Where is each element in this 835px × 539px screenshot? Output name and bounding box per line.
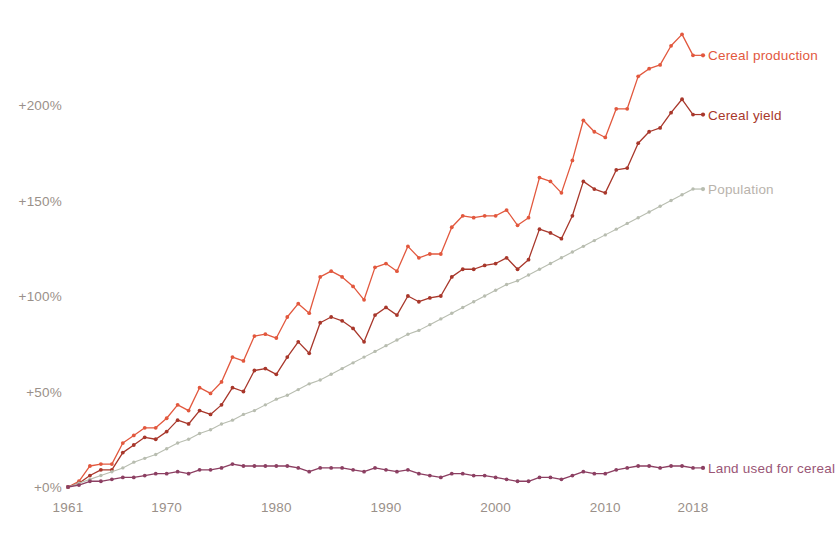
data-point	[318, 321, 322, 325]
data-point	[187, 438, 190, 441]
data-point	[88, 474, 92, 478]
data-point	[461, 214, 465, 218]
data-point	[395, 269, 399, 273]
data-point	[680, 464, 684, 468]
data-point	[406, 244, 410, 248]
data-point	[593, 239, 596, 242]
data-point	[560, 477, 564, 481]
data-point	[614, 168, 618, 172]
y-axis-tick-label: +150%	[0, 193, 62, 208]
data-point	[165, 447, 168, 450]
data-point	[538, 476, 542, 480]
data-point	[560, 256, 563, 259]
data-point	[406, 294, 410, 298]
data-point	[121, 466, 124, 469]
data-point	[417, 472, 421, 476]
data-point	[395, 470, 399, 474]
data-point	[636, 74, 640, 78]
data-point	[220, 422, 223, 425]
data-point	[110, 477, 114, 481]
data-point	[658, 126, 662, 130]
data-point	[220, 380, 224, 384]
data-point	[253, 409, 256, 412]
data-point	[417, 256, 421, 260]
data-point	[198, 386, 202, 390]
data-point	[66, 485, 70, 489]
data-point	[231, 355, 235, 359]
data-point	[209, 428, 212, 431]
data-point	[143, 474, 147, 478]
data-point	[329, 373, 332, 376]
series-end-marker	[701, 466, 705, 470]
data-point	[274, 336, 278, 340]
data-point	[154, 437, 158, 441]
data-point	[198, 468, 202, 472]
data-point	[614, 107, 618, 111]
data-point	[505, 256, 509, 260]
data-point	[636, 216, 639, 219]
data-point	[647, 67, 651, 71]
data-point	[669, 111, 673, 115]
data-point	[297, 388, 300, 391]
data-point	[165, 430, 169, 434]
data-point	[264, 403, 267, 406]
data-point	[307, 351, 311, 355]
data-point	[560, 191, 564, 195]
data-point	[505, 477, 509, 481]
data-point	[373, 350, 376, 353]
data-point	[165, 472, 169, 476]
data-point	[307, 470, 311, 474]
data-point	[395, 338, 398, 341]
data-point	[308, 382, 311, 385]
data-point	[132, 434, 136, 438]
x-axis-tick-label: 2010	[590, 500, 621, 515]
data-point	[99, 479, 103, 483]
data-point	[362, 340, 366, 344]
data-point	[636, 464, 640, 468]
data-point	[571, 250, 574, 253]
data-point	[505, 208, 509, 212]
data-point	[669, 464, 673, 468]
data-point	[231, 418, 234, 421]
data-point	[198, 432, 201, 435]
data-point	[231, 462, 235, 466]
data-point	[494, 262, 498, 266]
data-point	[483, 214, 487, 218]
data-point	[406, 333, 409, 336]
data-point	[275, 397, 278, 400]
data-point	[516, 279, 519, 282]
data-point	[581, 470, 585, 474]
data-point	[296, 340, 300, 344]
data-point	[527, 273, 530, 276]
x-axis-tick-label: 2000	[480, 500, 511, 515]
data-point	[439, 476, 443, 480]
x-axis-tick-label: 1980	[261, 500, 292, 515]
data-point	[373, 265, 377, 269]
data-point	[351, 468, 355, 472]
series-line-cereal-yield	[68, 99, 693, 487]
data-point	[176, 418, 180, 422]
data-point	[527, 216, 531, 220]
data-point	[494, 214, 498, 218]
data-point	[99, 474, 102, 477]
data-point	[110, 462, 114, 466]
data-point	[549, 231, 553, 235]
series-label-cereal-yield[interactable]: Cereal yield	[708, 107, 782, 122]
data-point	[472, 474, 476, 478]
data-point	[143, 426, 147, 430]
data-point	[88, 464, 92, 468]
series-label-population[interactable]: Population	[708, 182, 774, 197]
series-label-cereal-production[interactable]: Cereal production	[708, 48, 818, 63]
data-point	[318, 378, 321, 381]
series-label-land-used-for-cereal[interactable]: Land used for cereal	[708, 460, 835, 475]
data-point	[99, 468, 103, 472]
data-point	[658, 466, 662, 470]
data-point	[549, 476, 553, 480]
data-point	[658, 205, 661, 208]
data-point	[417, 300, 421, 304]
series-markers-cereal-yield	[66, 97, 695, 489]
data-point	[461, 267, 465, 271]
data-point	[351, 361, 354, 364]
data-point	[439, 252, 443, 256]
